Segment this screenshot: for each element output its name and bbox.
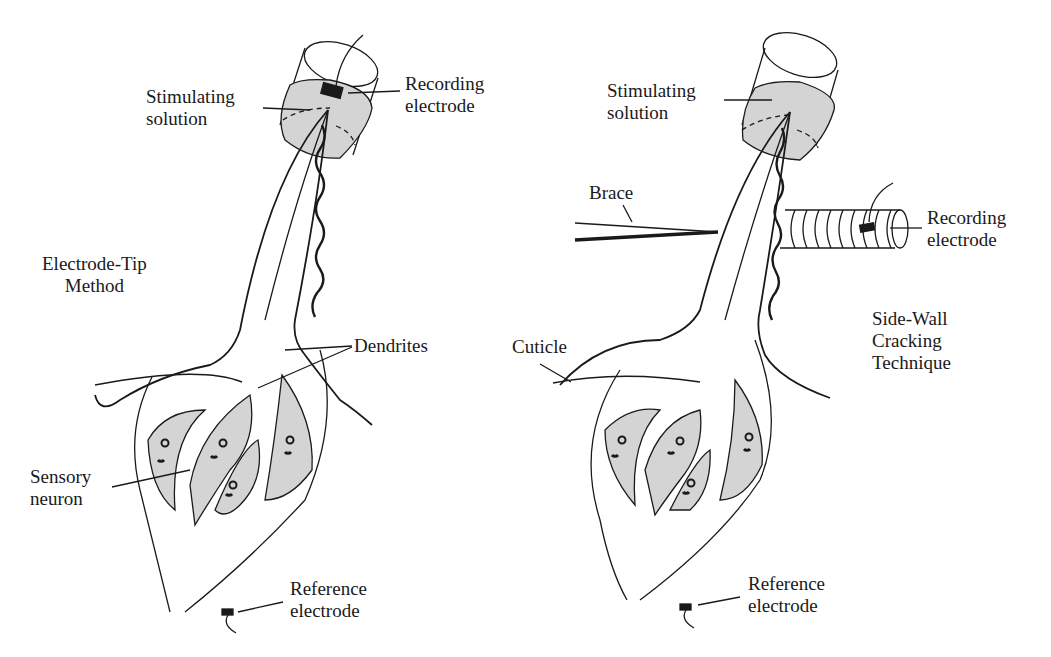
- leader-ref-right: [698, 597, 740, 605]
- label-reference-electrode-right: Reference electrode: [748, 573, 825, 617]
- label-stimulating-solution-left: Stimulating solution: [146, 86, 235, 130]
- leader-brace: [623, 205, 632, 222]
- reference-electrode-left: [222, 609, 233, 615]
- label-reference-electrode-left: Reference electrode: [290, 578, 367, 622]
- left-panel-drawing: [95, 33, 400, 633]
- label-dendrites: Dendrites: [354, 335, 428, 357]
- recording-electrode-right-cylinder: [780, 183, 908, 248]
- right-panel-drawing: [540, 24, 922, 628]
- leader-cuticle: [540, 364, 571, 382]
- reference-electrode-right: [680, 604, 691, 610]
- sensory-neurons-right: [605, 380, 762, 515]
- label-stimulating-solution-right: Stimulating solution: [607, 80, 696, 124]
- stimulating-cylinder-left: [280, 33, 383, 158]
- label-brace: Brace: [589, 182, 633, 204]
- label-sensory-neuron: Sensory neuron: [30, 466, 91, 510]
- label-recording-electrode-right: Recording electrode: [927, 207, 1006, 251]
- leader-ref-left: [238, 602, 283, 612]
- sensory-neurons-left: [148, 375, 312, 525]
- leader-dend-left: [258, 346, 352, 388]
- leader-neuron-left: [112, 470, 190, 487]
- method-title-side-wall-cracking: Side-Wall Cracking Technique: [872, 308, 951, 374]
- method-title-electrode-tip: Electrode-Tip Method: [42, 253, 147, 297]
- stimulating-cylinder-right: [742, 24, 842, 160]
- brace: [575, 223, 718, 240]
- cuticle-right: [553, 376, 700, 383]
- label-cuticle: Cuticle: [512, 336, 567, 358]
- label-recording-electrode-left: Recording electrode: [405, 73, 484, 117]
